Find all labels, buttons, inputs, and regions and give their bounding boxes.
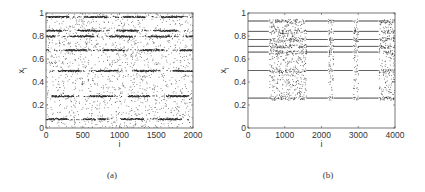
- x-tick-label: 500: [76, 130, 90, 140]
- x-axis-label: i: [321, 139, 323, 149]
- x-tick-label: 3000: [349, 130, 368, 140]
- y-tick-label: 1: [241, 8, 246, 18]
- y-tick-label: 0.8: [234, 31, 246, 41]
- y-tick-label: 0.6: [234, 54, 246, 64]
- x-tick-label: 0: [44, 130, 49, 140]
- y-tick-label: 1: [39, 8, 44, 18]
- scatter-plot-b: 0100020003000400000.20.40.60.81ixi: [212, 0, 425, 170]
- axis-ticks: 0100020003000400000.20.40.60.81: [234, 8, 405, 140]
- y-tick-label: 0.6: [32, 54, 44, 64]
- y-axis-label: xi: [16, 68, 28, 74]
- scatter-plot-a: 050010001500200000.20.40.60.81ixi: [0, 0, 212, 170]
- y-tick-label: 0.4: [234, 77, 246, 87]
- axis-ticks: 050010001500200000.20.40.60.81: [32, 8, 203, 140]
- plot-area: [248, 19, 396, 101]
- x-tick-label: 1000: [275, 130, 294, 140]
- chart-panel-a: 050010001500200000.20.40.60.81ixi (a): [0, 0, 212, 192]
- caption-a: (a): [92, 170, 132, 180]
- y-tick-label: 0: [241, 123, 246, 133]
- x-axis-label: i: [119, 139, 121, 149]
- y-tick-label: 0.2: [32, 100, 44, 110]
- data-points: [46, 13, 194, 129]
- caption-b: (b): [308, 170, 348, 180]
- x-tick-label: 1500: [147, 130, 166, 140]
- y-tick-label: 0.2: [234, 100, 246, 110]
- y-tick-label: 0: [39, 123, 44, 133]
- plot-area: [46, 13, 194, 129]
- y-tick-label: 0.8: [32, 31, 44, 41]
- x-tick-label: 0: [246, 130, 251, 140]
- y-tick-label: 0.4: [32, 77, 44, 87]
- y-axis-label: xi: [218, 68, 230, 74]
- x-tick-label: 2000: [184, 130, 203, 140]
- chart-panel-b: 0100020003000400000.20.40.60.81ixi (b): [212, 0, 424, 192]
- x-tick-label: 4000: [386, 130, 405, 140]
